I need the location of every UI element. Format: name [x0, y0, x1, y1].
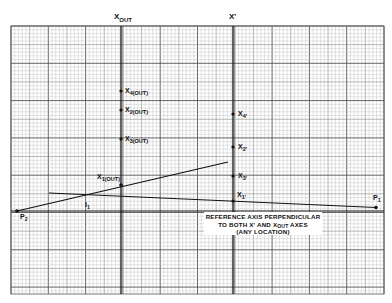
point-marker	[119, 89, 122, 92]
point-marker	[231, 145, 234, 148]
paper-background	[0, 0, 392, 303]
point-marker	[119, 137, 122, 140]
point-marker	[231, 174, 234, 177]
note-line-3: (ANY LOCATION)	[236, 228, 289, 235]
point-marker	[119, 183, 123, 187]
p1-marker	[374, 206, 378, 210]
point-marker	[231, 112, 234, 115]
point-marker	[231, 199, 234, 202]
p2-marker	[15, 209, 19, 213]
note-line-1: REFERENCE AXIS PERPENDICULAR	[206, 213, 321, 220]
graph-paper-grid	[11, 26, 384, 294]
x-prime-axis-label: X'	[229, 12, 236, 21]
diagram-canvas: XOUT X' X4(OUT) X2(OUT) X3(OUT) X1(OUT) …	[0, 0, 392, 303]
point-marker	[119, 108, 122, 111]
